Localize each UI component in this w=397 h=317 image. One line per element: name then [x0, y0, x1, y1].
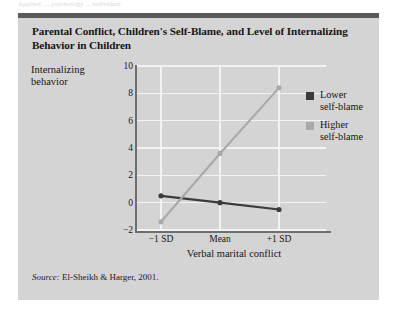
y-tick-label: 10: [113, 61, 133, 71]
legend-label: Higherself-blame: [320, 119, 363, 142]
x-tick-labels: −1 SDMean+1 SD: [136, 234, 348, 248]
y-tick-label: 2: [113, 170, 133, 180]
x-tick-label: +1 SD: [267, 234, 292, 244]
x-tick-label: Mean: [209, 234, 231, 244]
legend-swatch-icon: [306, 92, 314, 100]
x-tick-label: −1 SD: [149, 234, 174, 244]
page-cut-text: Applied: ... psychology ... individual: [18, 0, 278, 9]
data-point: [217, 151, 222, 156]
chart-legend: Lowerself-blameHigherself-blame: [306, 89, 388, 149]
legend-item[interactable]: Higherself-blame: [306, 119, 388, 142]
x-axis-line: [135, 231, 331, 233]
source-label: Source:: [32, 272, 60, 282]
y-axis-title: Internalizing behavior: [31, 64, 113, 88]
source-citation: El-Sheikh & Harger, 2001.: [62, 272, 159, 282]
figure-title: Parental Conflict, Children's Self-Blame…: [32, 25, 352, 52]
figure-source: Source: El-Sheikh & Harger, 2001.: [32, 272, 159, 282]
y-tick-label: 4: [113, 143, 133, 153]
data-point: [158, 193, 163, 198]
figure-panel: Parental Conflict, Children's Self-Blame…: [18, 13, 379, 300]
data-point: [217, 200, 222, 205]
y-tick-label: 0: [113, 198, 133, 208]
y-tick-label: 8: [113, 88, 133, 98]
panel-top-rule: [18, 13, 379, 18]
data-point: [276, 85, 281, 90]
data-point: [158, 219, 163, 224]
plot-wrapper: −20246810 −1 SDMean+1 SD Verbal marital …: [114, 62, 332, 262]
legend-label: Lowerself-blame: [320, 89, 363, 112]
legend-swatch-icon: [306, 122, 314, 130]
legend-item[interactable]: Lowerself-blame: [306, 89, 388, 112]
y-axis-title-line1: Internalizing: [31, 64, 85, 75]
y-tick-label: 6: [113, 116, 133, 126]
y-axis-title-line2: behavior: [31, 76, 68, 87]
data-point: [276, 207, 281, 212]
y-tick-labels: −20246810: [114, 66, 133, 230]
y-tick-label: −2: [113, 225, 133, 235]
x-axis-title: Verbal marital conflict: [136, 248, 332, 259]
